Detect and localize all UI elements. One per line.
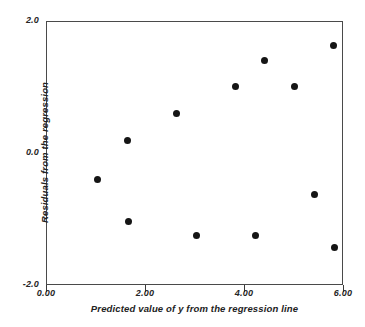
y-tick-label-2.0: 2.0	[5, 15, 39, 25]
data-point	[331, 244, 338, 251]
data-point	[311, 191, 318, 198]
data-point	[252, 232, 259, 239]
scatter-plot-figure: 2.0 0.0 -2.0 0.00 2.00 4.00 6.00 Predict…	[0, 0, 365, 327]
y-axis-title: Residuals from the regression	[39, 21, 50, 285]
y-tick-label-0.0: 0.0	[5, 147, 39, 157]
data-point	[173, 110, 180, 117]
x-tick-label-6.00: 6.00	[320, 288, 365, 298]
data-point	[193, 232, 200, 239]
x-tick-label-0.00: 0.00	[23, 288, 69, 298]
plot-area	[46, 21, 343, 285]
data-point	[125, 218, 132, 225]
data-points-layer	[47, 22, 342, 284]
data-point	[94, 176, 101, 183]
x-tick-label-2.00: 2.00	[122, 288, 168, 298]
x-tick-label-4.00: 4.00	[221, 288, 267, 298]
data-point	[291, 83, 298, 90]
data-point	[330, 42, 337, 49]
x-axis-title: Predicted value of y from the regression…	[46, 303, 343, 314]
data-point	[124, 137, 131, 144]
data-point	[232, 83, 239, 90]
data-point	[261, 57, 268, 64]
